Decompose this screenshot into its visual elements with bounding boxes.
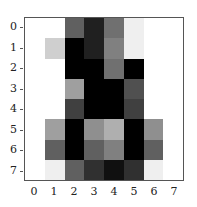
y-tick-label: 7 [7, 164, 17, 177]
heatmap-cell [25, 79, 45, 99]
y-tick-label: 1 [7, 41, 17, 54]
heatmap-cell [84, 99, 104, 119]
x-tick-label: 3 [88, 185, 100, 198]
heatmap-cell [65, 160, 85, 180]
heatmap-cell [45, 79, 65, 99]
heatmap-cell [84, 18, 104, 38]
heatmap-cell [144, 59, 164, 79]
heatmap-cell [25, 140, 45, 160]
heatmap-cell [84, 38, 104, 58]
heatmap-cell [84, 119, 104, 139]
heatmap-cell [124, 79, 144, 99]
y-tick-label: 3 [7, 82, 17, 95]
heatmap-cell [65, 38, 85, 58]
heatmap-cell [163, 99, 183, 119]
heatmap-cell [25, 18, 45, 38]
heatmap-cell [45, 59, 65, 79]
heatmap-cell [124, 140, 144, 160]
heatmap-cell [163, 38, 183, 58]
heatmap-cell [25, 59, 45, 79]
x-tick-label: 4 [108, 185, 120, 198]
heatmap-cell [45, 38, 65, 58]
x-tick-label: 7 [168, 185, 180, 198]
heatmap-cell [124, 160, 144, 180]
heatmap-cell [124, 99, 144, 119]
heatmap-cell [144, 99, 164, 119]
heatmap-cell [163, 160, 183, 180]
heatmap-cell [104, 38, 124, 58]
heatmap-cell [65, 18, 85, 38]
x-tick-label: 0 [28, 185, 40, 198]
y-tick-label: 4 [7, 102, 17, 115]
heatmap-cell [104, 140, 124, 160]
heatmap-cell [104, 79, 124, 99]
heatmap-cell [144, 119, 164, 139]
heatmap-cell [65, 79, 85, 99]
heatmap-cell [84, 79, 104, 99]
x-tick-label: 6 [148, 185, 160, 198]
heatmap-cell [45, 18, 65, 38]
heatmap-cell [124, 119, 144, 139]
heatmap-cell [84, 59, 104, 79]
heatmap-cell [25, 38, 45, 58]
heatmap-cell [25, 119, 45, 139]
heatmap-cell [163, 18, 183, 38]
heatmap-cell [163, 59, 183, 79]
heatmap-cell [25, 99, 45, 119]
heatmap-cell [144, 160, 164, 180]
y-tick-label: 6 [7, 143, 17, 156]
heatmap-cell [104, 99, 124, 119]
heatmap-cell [144, 18, 164, 38]
heatmap-cell [104, 18, 124, 38]
heatmap-cell [144, 38, 164, 58]
heatmap-cell [144, 140, 164, 160]
heatmap-cell [45, 119, 65, 139]
heatmap-cell [163, 119, 183, 139]
heatmap-cell [65, 140, 85, 160]
heatmap-cell [45, 160, 65, 180]
x-tick-label: 2 [68, 185, 80, 198]
heatmap-cell [84, 140, 104, 160]
heatmap-cell [144, 79, 164, 99]
x-tick-label: 1 [48, 185, 60, 198]
x-tick-label: 5 [128, 185, 140, 198]
heatmap-cell [65, 119, 85, 139]
heatmap-cell [104, 119, 124, 139]
heatmap-cell [124, 18, 144, 38]
heatmap-cell [45, 140, 65, 160]
heatmap-cell [163, 79, 183, 99]
heatmap-cell [65, 99, 85, 119]
heatmap-cell [124, 59, 144, 79]
heatmap-cell [104, 59, 124, 79]
heatmap-cell [124, 38, 144, 58]
heatmap-plot-area [24, 17, 184, 181]
y-tick-label: 2 [7, 61, 17, 74]
heatmap-cell [45, 99, 65, 119]
y-tick-label: 0 [7, 20, 17, 33]
heatmap-cell [65, 59, 85, 79]
y-tick-label: 5 [7, 123, 17, 136]
heatmap-cell [84, 160, 104, 180]
heatmap-cell [104, 160, 124, 180]
heatmap-cell [25, 160, 45, 180]
heatmap-cell [163, 140, 183, 160]
